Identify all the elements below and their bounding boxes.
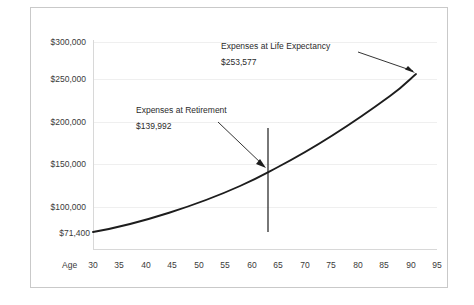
y-axis-tick-labels: $300,000 $250,000 $200,000 $150,000 $100…: [51, 37, 91, 238]
x-tick-label-85: 85: [379, 260, 389, 270]
expenses-projection-chart: $300,000 $250,000 $200,000 $150,000 $100…: [0, 0, 474, 305]
annotation-life-expectancy-title: Expenses at Life Expectancy: [221, 41, 331, 51]
x-axis-tick-labels: 30 35 40 45 50 55 60 65 70 75 80 85 90 9…: [88, 260, 442, 270]
x-tick-label-70: 70: [300, 260, 310, 270]
annotation-life-expectancy: Expenses at Life Expectancy $253,577: [221, 41, 331, 67]
y-tick-label-300000: $300,000: [51, 37, 87, 47]
x-tick-label-45: 45: [167, 260, 177, 270]
y-tick-label-150000: $150,000: [51, 159, 87, 169]
x-tick-label-30: 30: [88, 260, 98, 270]
x-axis-label: Age: [62, 260, 77, 270]
x-tick-label-40: 40: [141, 260, 151, 270]
y-tick-label-250000: $250,000: [51, 74, 87, 84]
chart-plot-area: $300,000 $250,000 $200,000 $150,000 $100…: [0, 0, 474, 305]
expenses-curve: [93, 74, 416, 232]
x-tick-label-95: 95: [432, 260, 442, 270]
annotation-retirement-value: $139,992: [136, 121, 172, 131]
x-tick-label-90: 90: [406, 260, 416, 270]
annotation-retirement-title: Expenses at Retirement: [136, 105, 227, 115]
x-tick-label-80: 80: [353, 260, 363, 270]
y-tick-label-200000: $200,000: [51, 117, 87, 127]
retirement-arrow: [218, 122, 266, 168]
x-tick-label-65: 65: [273, 260, 283, 270]
x-tick-label-35: 35: [114, 260, 124, 270]
x-tick-label-75: 75: [326, 260, 336, 270]
life-expectancy-arrow: [358, 52, 415, 73]
annotation-retirement: Expenses at Retirement $139,992: [136, 105, 227, 131]
y-tick-label-100000: $100,000: [51, 202, 87, 212]
start-value-label: $71,400: [59, 228, 90, 238]
annotation-life-expectancy-value: $253,577: [221, 57, 257, 67]
x-tick-label-55: 55: [220, 260, 230, 270]
x-tick-label-50: 50: [194, 260, 204, 270]
x-tick-label-60: 60: [247, 260, 257, 270]
